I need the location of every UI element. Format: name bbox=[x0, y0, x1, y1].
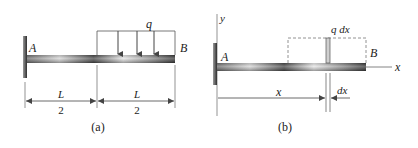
x-axis-label: x bbox=[394, 60, 401, 74]
diagram-canvas: A B q L 2 L 2 (a) y x q dx A B bbox=[0, 0, 418, 148]
right-span-denominator: 2 bbox=[134, 104, 140, 116]
fixed-wall-support bbox=[213, 43, 217, 85]
caption-a: (a) bbox=[91, 120, 104, 134]
caption-b: (b) bbox=[278, 120, 292, 134]
figure-a: A B q L 2 L 2 (a) bbox=[23, 17, 188, 134]
y-axis-label: y bbox=[219, 12, 225, 24]
right-span-numerator: L bbox=[133, 88, 140, 100]
label-a-support: A bbox=[28, 41, 37, 55]
position-label: x bbox=[275, 85, 282, 99]
label-a-load: q bbox=[146, 17, 152, 31]
cantilever-beam bbox=[217, 63, 366, 71]
distributed-load bbox=[97, 31, 175, 55]
figure-b: y x q dx A B x dx (b) bbox=[213, 12, 401, 134]
label-b-support: A bbox=[220, 50, 229, 64]
left-span-denominator: 2 bbox=[58, 104, 64, 116]
cantilever-beam bbox=[27, 55, 175, 63]
element-width-label: dx bbox=[337, 84, 348, 96]
element-load-label: q dx bbox=[331, 23, 350, 35]
label-b-free-end: B bbox=[370, 46, 378, 60]
left-span-numerator: L bbox=[57, 88, 64, 100]
load-element-strip bbox=[326, 38, 330, 63]
label-a-free-end: B bbox=[180, 41, 188, 55]
fixed-wall-support bbox=[23, 36, 27, 78]
